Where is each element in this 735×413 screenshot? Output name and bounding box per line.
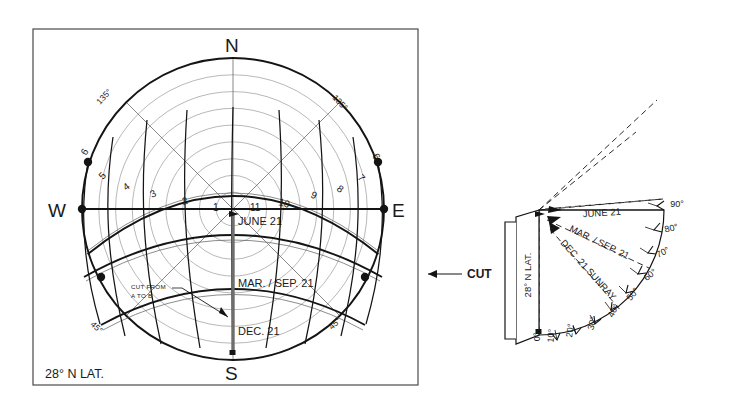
sunset-dot-sw bbox=[97, 273, 105, 281]
cut-label: CUT bbox=[467, 267, 492, 281]
cardinal-south: S bbox=[225, 363, 238, 384]
protractor-degree-20: 20° bbox=[564, 323, 576, 338]
protractor-degree-10: 10° bbox=[546, 328, 557, 343]
sunrise-dot-nw bbox=[84, 158, 92, 166]
protractor-rays bbox=[539, 100, 663, 210]
protractor-degree-0: 0° bbox=[532, 332, 542, 341]
cut-note-line1: CUT FROM bbox=[131, 283, 166, 290]
june-21-label: JUNE 21 bbox=[238, 215, 282, 227]
point-b-marker bbox=[230, 350, 236, 355]
cardinal-east: E bbox=[392, 200, 405, 221]
hour-label-w-1: 1 bbox=[213, 202, 219, 213]
cut-note-line2: A TO B bbox=[131, 292, 153, 299]
left-panel-frame bbox=[33, 29, 418, 385]
ray-mar-sep-21 bbox=[539, 100, 657, 210]
latitude-label: 28° N LAT. bbox=[45, 367, 104, 381]
ray-dec-21 bbox=[539, 132, 636, 210]
protractor-latitude-label: 28° N LAT. bbox=[522, 253, 533, 298]
sunset-dot-se bbox=[361, 273, 369, 281]
protractor-tab-flap bbox=[505, 222, 516, 339]
cardinal-north: N bbox=[225, 35, 239, 56]
figure-canvas: N S W E 135° 135° 45° 45° 6 5 4 3 2 1 11… bbox=[0, 0, 735, 413]
cardinal-west: W bbox=[48, 200, 66, 221]
west-dot bbox=[78, 205, 86, 213]
mar-sep-21-label: MAR. / SEP. 21 bbox=[238, 277, 314, 289]
cut-arrow-left bbox=[428, 270, 437, 278]
east-dot bbox=[380, 205, 388, 213]
sun-path-figure: N S W E 135° 135° 45° 45° 6 5 4 3 2 1 11… bbox=[0, 0, 735, 413]
protractor-degree-80: 80° bbox=[664, 222, 680, 235]
protractor-degree-90: 90° bbox=[670, 199, 684, 209]
dec-21-label: DEC. 21 bbox=[238, 325, 280, 337]
hour-label-e-11: 11 bbox=[250, 202, 261, 213]
